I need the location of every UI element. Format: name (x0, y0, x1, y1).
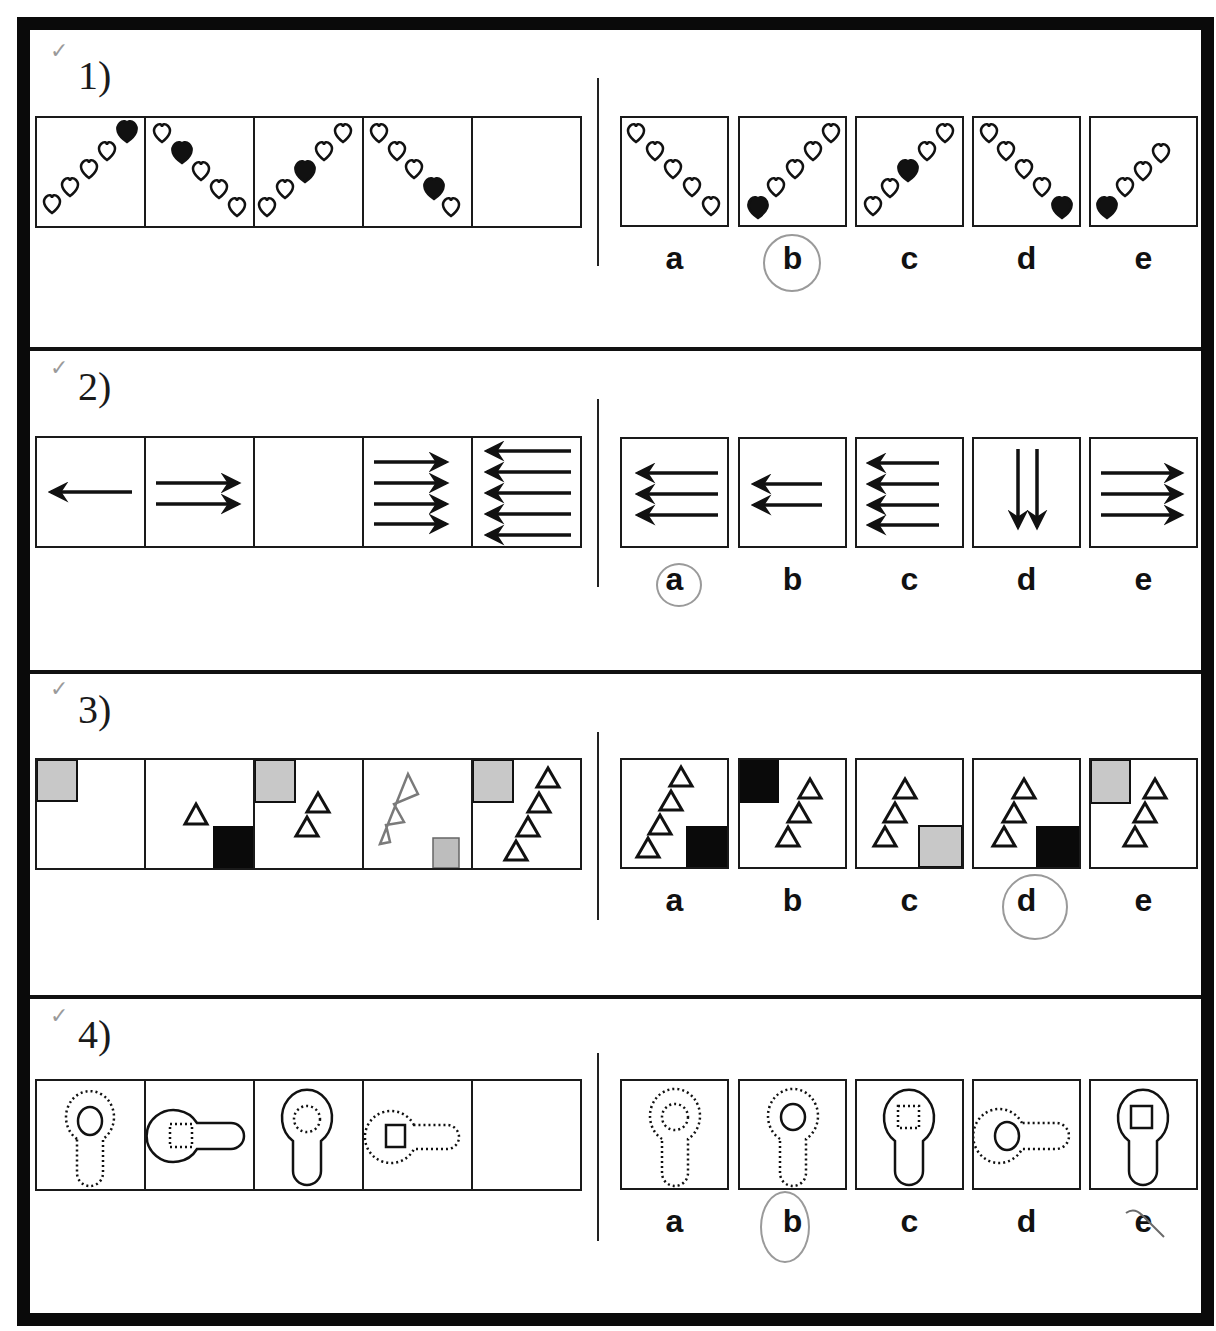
option-label-c[interactable]: c (855, 561, 964, 598)
answer-circle-mark (1002, 874, 1068, 940)
checkmark-icon: ✓ (50, 676, 68, 702)
arrows-right-icon (146, 438, 253, 546)
sequence-cell-2 (146, 438, 255, 546)
option-label-c[interactable]: c (855, 1203, 964, 1240)
question-number: 2) (78, 363, 111, 410)
triangle-black-square-icon (146, 760, 253, 868)
triangles-black-square-icon (740, 760, 845, 867)
option-a[interactable] (620, 1079, 729, 1190)
option-c[interactable] (855, 1079, 964, 1190)
option-c[interactable] (855, 116, 964, 227)
option-d[interactable] (972, 116, 1081, 227)
hearts-down-icon (364, 118, 471, 226)
option-e[interactable] (1089, 116, 1198, 227)
question-number: 4) (78, 1011, 111, 1058)
option-label-c[interactable]: c (855, 240, 964, 277)
answer-circle-mark (656, 563, 702, 607)
divider-line (597, 732, 599, 920)
option-b[interactable] (738, 1079, 847, 1190)
arrows-down-icon (974, 439, 1079, 546)
sequence-cell-3 (255, 1081, 364, 1189)
worksheet-frame: ✓ 1) (17, 17, 1214, 1326)
answer-circle-mark (760, 1191, 810, 1263)
option-c[interactable] (855, 437, 964, 548)
arrow-left-icon (37, 438, 144, 546)
option-a[interactable] (620, 116, 729, 227)
sequence-cell-4 (364, 1081, 473, 1189)
option-e[interactable] (1089, 437, 1198, 548)
sequence-cell-5 (473, 438, 580, 546)
grey-square-triangles-icon (473, 760, 580, 868)
checkmark-icon: ✓ (50, 38, 68, 64)
hearts-up-icon (740, 118, 845, 225)
arrows-right-icon (1091, 439, 1196, 546)
sequence-cell-blank (473, 118, 580, 226)
sequence-strip (35, 1079, 582, 1191)
checkmark-icon: ✓ (50, 355, 68, 381)
option-label-d[interactable]: d (972, 240, 1081, 277)
strike-mark-icon (1120, 1205, 1170, 1245)
question-number: 1) (78, 52, 111, 99)
hearts-down-icon (974, 118, 1079, 225)
keyhole-dotted-icon (37, 1081, 144, 1189)
divider-line (597, 1053, 599, 1241)
option-label-a[interactable]: a (620, 882, 729, 919)
sequence-cell-1 (37, 1081, 146, 1189)
option-label-e[interactable]: e (1089, 561, 1198, 598)
question-3: ✓ 3) (30, 674, 1201, 995)
arrows-left-icon (857, 439, 962, 546)
option-label-e[interactable]: e (1089, 240, 1198, 277)
question-4: ✓ 4) (30, 999, 1201, 1313)
handdrawn-triangles-icon (364, 760, 471, 868)
option-d[interactable] (972, 758, 1081, 869)
sequence-strip (35, 116, 582, 228)
option-b[interactable] (738, 758, 847, 869)
hearts-up-icon (857, 118, 962, 225)
arrows-right-icon (364, 438, 471, 546)
sequence-cell-2 (146, 1081, 255, 1189)
option-d[interactable] (972, 437, 1081, 548)
sequence-strip (35, 758, 582, 870)
hearts-down-icon (622, 118, 727, 225)
sequence-cell-blank (473, 1081, 580, 1189)
option-e[interactable] (1089, 758, 1198, 869)
option-label-e[interactable]: e (1089, 882, 1198, 919)
option-label-d[interactable]: d (972, 1203, 1081, 1240)
checkmark-icon: ✓ (50, 1003, 68, 1029)
sequence-cell-blank (255, 438, 364, 546)
option-label-a[interactable]: a (620, 1203, 729, 1240)
question-1: ✓ 1) (30, 30, 1201, 347)
arrows-left-icon (622, 439, 727, 546)
sequence-cell-5 (473, 760, 580, 868)
option-d[interactable] (972, 1079, 1081, 1190)
keyhole-horizontal-dotted-icon (974, 1081, 1079, 1188)
hearts-down-icon (146, 118, 253, 226)
sequence-cell-3 (255, 118, 364, 226)
option-label-d[interactable]: d (972, 561, 1081, 598)
option-b[interactable] (738, 116, 847, 227)
sequence-cell-4-handdrawn (364, 760, 473, 868)
answer-circle-mark (763, 234, 821, 292)
option-c[interactable] (855, 758, 964, 869)
question-number: 3) (78, 686, 111, 733)
option-a[interactable] (620, 758, 729, 869)
hearts-up-icon (37, 118, 144, 226)
sequence-cell-4 (364, 438, 473, 546)
keyhole-dotted-icon (740, 1081, 845, 1188)
keyhole-solid-icon (857, 1081, 962, 1188)
divider-line (597, 399, 599, 587)
option-b[interactable] (738, 437, 847, 548)
option-label-a[interactable]: a (620, 240, 729, 277)
sequence-cell-4 (364, 118, 473, 226)
triangles-grey-square-icon (857, 760, 962, 867)
option-a[interactable] (620, 437, 729, 548)
option-e[interactable] (1089, 1079, 1198, 1190)
hearts-up-icon (1091, 118, 1196, 225)
option-label-c[interactable]: c (855, 882, 964, 919)
option-label-b[interactable]: b (738, 561, 847, 598)
sequence-cell-2 (146, 118, 255, 226)
keyhole-horizontal-dotted-icon (364, 1081, 471, 1189)
option-label-b[interactable]: b (738, 882, 847, 919)
grey-square-triangles-icon (255, 760, 362, 868)
triangles-black-square-icon (622, 760, 727, 867)
